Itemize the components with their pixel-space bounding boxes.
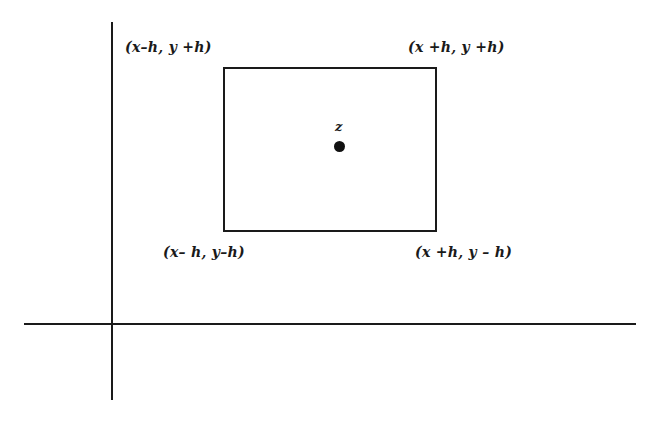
corner-label-top-right: (x +h, y +h)	[408, 39, 505, 55]
corner-label-bottom-left: (x– h, y–h)	[163, 244, 245, 260]
center-point-label: z	[335, 119, 342, 134]
center-point-dot	[334, 141, 345, 152]
square-neighborhood	[223, 67, 437, 232]
corner-label-top-left: (x–h, y +h)	[125, 39, 212, 55]
y-axis-line	[111, 22, 113, 400]
x-axis-line	[24, 323, 636, 325]
corner-label-bottom-right: (x +h, y – h)	[415, 244, 512, 260]
